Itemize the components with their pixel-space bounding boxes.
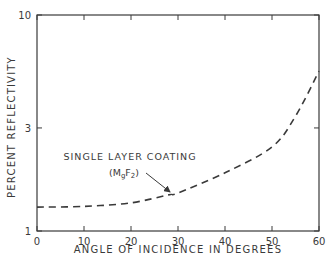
svg-text:0: 0	[34, 236, 40, 247]
y-axis-label: PERCENT REFLECTIVITY	[6, 56, 17, 198]
plot-frame	[37, 15, 319, 231]
svg-text:60: 60	[313, 236, 326, 247]
annotation-line-1: SINGLE LAYER COATING	[63, 151, 196, 162]
annotation-arrow	[146, 173, 170, 192]
svg-text:1: 1	[25, 226, 31, 237]
svg-text:3: 3	[25, 123, 31, 134]
svg-text:10: 10	[18, 10, 31, 21]
x-axis-label: ANGLE OF INCIDENCE IN DEGREES	[74, 244, 282, 255]
tick-labels: 01020304050601310	[18, 10, 325, 247]
annotation-line-2: (MgF2)	[109, 167, 139, 180]
reflectivity-curve	[37, 71, 319, 207]
axis-ticks	[37, 15, 319, 231]
reflectivity-chart: 01020304050601310 ANGLE OF INCIDENCE IN …	[0, 0, 334, 267]
